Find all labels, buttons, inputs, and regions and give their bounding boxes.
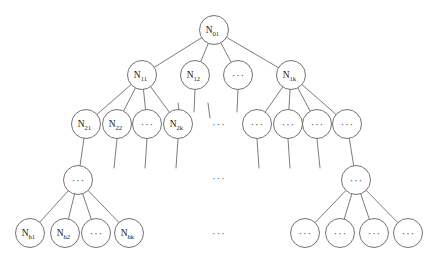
- node-ellipsis-label: ···: [232, 70, 246, 81]
- tree-edge: [68, 194, 74, 219]
- tree-stub-edge: [194, 90, 195, 112]
- tree-node-n12: N12: [181, 61, 210, 90]
- node-ellipsis-label: ···: [311, 119, 325, 130]
- tree-node-n11: N11: [128, 61, 157, 90]
- tree-node-ellipsis: ···: [64, 166, 93, 195]
- tree-stub-edge: [114, 139, 117, 168]
- node-layer: N01N11N12···N1kN21N22···N2k·············…: [16, 16, 423, 248]
- tree-stub-edge: [208, 103, 210, 118]
- tree-stub-edge: [257, 139, 259, 168]
- tree-node-n22: N22: [103, 110, 132, 139]
- tree-edge: [88, 190, 119, 222]
- tree-node-n2k: N2k: [164, 110, 193, 139]
- tree-stub-edge: [288, 139, 290, 168]
- tree-node-n1k: N1k: [277, 61, 306, 90]
- tree-node-ellipsis: ···: [303, 110, 332, 139]
- tree-stub-edge: [317, 139, 320, 168]
- tree-node-ellipsis: ···: [291, 219, 320, 248]
- tree-node-ellipsis: ···: [326, 219, 355, 248]
- gap-marker-layer: ·········: [212, 119, 226, 239]
- tree-node-ellipsis: ···: [342, 166, 371, 195]
- tree-stub-edge: [237, 90, 238, 112]
- tree-edge: [80, 138, 84, 165]
- tree-edge: [40, 191, 69, 223]
- gap-ellipsis-marker: ···: [212, 173, 226, 184]
- tree-node-ellipsis: ···: [243, 110, 272, 139]
- tree-node-ellipsis: ···: [82, 219, 111, 248]
- tree-node-n01: N01: [200, 16, 229, 45]
- node-ellipsis-label: ···: [341, 119, 355, 130]
- tree-edge: [298, 88, 310, 111]
- tree-edge: [143, 89, 145, 109]
- gap-ellipsis-marker: ···: [212, 228, 226, 239]
- tree-node-ellipsis: ···: [274, 110, 303, 139]
- tree-node-nh1: Nh1: [16, 219, 45, 248]
- tree-stub-edge: [145, 139, 147, 168]
- tree-edge: [349, 138, 353, 165]
- tree-canvas: N01N11N12···N1kN21N22···N2k·············…: [0, 0, 440, 265]
- tree-node-ellipsis: ···: [333, 110, 362, 139]
- tree-node-nh2: Nh2: [51, 219, 80, 248]
- tree-edge: [83, 194, 92, 220]
- node-ellipsis-label: ···: [282, 119, 296, 130]
- tree-edge: [151, 87, 170, 113]
- tree-edge: [289, 89, 290, 109]
- tree-node-ellipsis: ···: [133, 110, 162, 139]
- node-ellipsis-label: ···: [402, 228, 416, 239]
- node-ellipsis-label: ···: [299, 228, 313, 239]
- tree-edge: [201, 43, 209, 61]
- tree-node-ellipsis: ···: [360, 219, 389, 248]
- tree-node-nhk: Nhk: [115, 219, 144, 248]
- node-ellipsis-label: ···: [251, 119, 265, 130]
- tree-diagram: N01N11N12···N1kN21N22···N2k·············…: [0, 0, 440, 265]
- node-ellipsis-label: ···: [368, 228, 382, 239]
- tree-node-ellipsis: ···: [394, 219, 423, 248]
- node-ellipsis-label: ···: [334, 228, 348, 239]
- tree-stub-edge: [176, 139, 178, 168]
- tree-edge: [315, 190, 346, 222]
- tree-edge: [366, 190, 398, 222]
- tree-edge: [361, 194, 370, 220]
- tree-edge: [265, 87, 282, 112]
- gap-ellipsis-marker: ···: [212, 119, 226, 130]
- node-ellipsis-label: ···: [72, 175, 86, 186]
- tree-edge: [124, 88, 136, 111]
- node-ellipsis-label: ···: [350, 175, 364, 186]
- tree-node-ellipsis: ···: [224, 61, 253, 90]
- node-ellipsis-label: ···: [90, 228, 104, 239]
- tree-edge: [221, 43, 231, 62]
- node-ellipsis-label: ···: [141, 119, 155, 130]
- tree-edge: [344, 194, 352, 219]
- tree-node-n21: N21: [72, 110, 101, 139]
